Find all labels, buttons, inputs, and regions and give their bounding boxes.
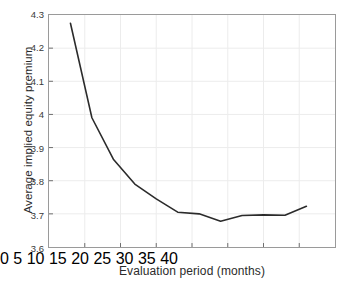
x-tick-label: 0 [0, 250, 9, 267]
y-tick-label: 4.1 [31, 75, 44, 86]
y-tick-label: 4 [39, 109, 44, 120]
y-tick-label: 4.2 [31, 42, 44, 53]
tick-marks [49, 15, 335, 247]
plot-area [48, 14, 336, 248]
y-tick-label: 3.8 [31, 176, 44, 187]
x-tick-label: 10 [27, 250, 45, 267]
x-axis-label: Evaluation period (months) [48, 264, 336, 278]
y-tick-label: 3.7 [31, 209, 44, 220]
y-axis-tick-labels: 4.3 4.2 4.1 4 3.9 3.8 3.7 3.6 [0, 0, 44, 292]
y-tick-label: 3.9 [31, 142, 44, 153]
x-tick-label: 5 [13, 250, 22, 267]
y-tick-label: 4.3 [31, 9, 44, 20]
chart-figure: Average implied equity premium 4.3 4.2 4… [0, 0, 350, 292]
